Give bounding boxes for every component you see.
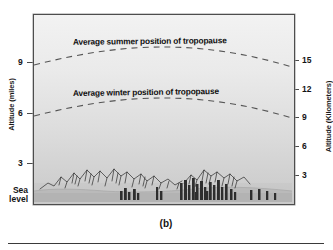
right-tick-label-3: 3 [302,170,307,180]
figure-caption: (b) [0,218,332,229]
winter-tropopause-label: Average winter position of tropopause [73,86,219,98]
right-tick-label-15: 15 [302,55,311,65]
left-axis-title: Altitude (miles) [7,70,16,140]
right-tick-label-12: 12 [302,84,311,94]
left-tick-label-9: 9 [18,57,23,67]
winter-tropopause-curve [34,98,292,118]
ground-layer [34,183,292,202]
right-tick-label-6: 6 [302,141,307,151]
sea-level-label-line2: level [2,195,28,204]
summer-tropopause-curve [34,47,292,67]
left-tick-label-6: 6 [18,108,23,118]
left-tick-label-3: 3 [18,158,23,168]
bottom-divider [8,243,324,244]
right-tick-label-9: 9 [302,112,307,122]
right-axis-title: Altitude (Kilometers) [324,75,333,159]
summer-tropopause-label: Average summer position of tropopause [73,35,227,47]
